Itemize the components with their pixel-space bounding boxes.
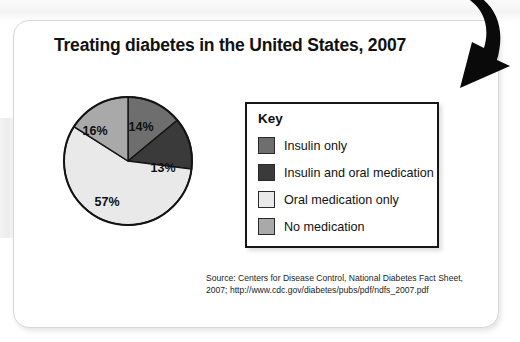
source-line-1: Source: Centers for Disease Control, Nat… <box>206 272 474 284</box>
legend-item: No medication <box>258 213 431 240</box>
legend-item-label: Oral medication only <box>284 193 399 207</box>
pie-slice-value-label: 57% <box>94 195 119 209</box>
legend-item: Insulin only <box>258 132 431 159</box>
legend-item-label: Insulin and oral medication <box>284 166 434 180</box>
legend-item-label: No medication <box>284 220 365 234</box>
legend-box: Key Insulin onlyInsulin and oral medicat… <box>245 102 439 248</box>
legend-items: Insulin onlyInsulin and oral medicationO… <box>258 132 431 240</box>
page-title: Treating diabetes in the United States, … <box>0 35 460 56</box>
legend-title: Key <box>258 111 283 126</box>
source-line-2: 2007; http://www.cdc.gov/diabetes/pubs/p… <box>206 284 474 296</box>
legend-item: Insulin and oral medication <box>258 159 431 186</box>
legend-swatch-icon <box>258 164 275 181</box>
scan-artifact-left <box>0 118 14 238</box>
pie-slice-value-label: 13% <box>150 161 175 175</box>
legend-swatch-icon <box>258 218 275 235</box>
scan-artifact-top <box>0 0 520 22</box>
legend-swatch-icon <box>258 191 275 208</box>
pie-slice-value-label: 16% <box>82 124 107 138</box>
source-note: Source: Centers for Disease Control, Nat… <box>206 272 474 296</box>
legend-item-label: Insulin only <box>284 139 347 153</box>
pie-chart: 14%13%57%16% <box>62 95 194 227</box>
legend-item: Oral medication only <box>258 186 431 213</box>
legend-swatch-icon <box>258 137 275 154</box>
pie-slice-value-label: 14% <box>128 120 153 134</box>
